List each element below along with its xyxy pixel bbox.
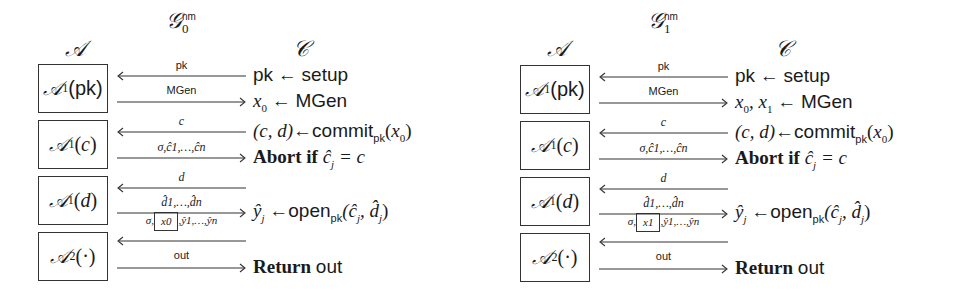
label-suffix: ,ŷ1,…,ŷn <box>660 215 699 227</box>
assign-arrow: ← <box>278 64 297 85</box>
label-suffix: ,ŷ1,…,ŷn <box>178 214 217 226</box>
step-lhs: (c, d) <box>253 120 293 141</box>
arrow-right-icon <box>117 263 246 273</box>
arrow-left-icon <box>117 183 246 193</box>
challenger-step-setup: pk ← setup <box>253 64 348 86</box>
step-fn: commit <box>312 120 373 141</box>
box-arg: pk <box>557 78 578 101</box>
challenger-step-commit: (c, d)←commitpk(x0) <box>253 120 412 144</box>
message-label-sigma-x-y-hats: σ,x1,ŷ1,…,ŷn <box>599 213 728 232</box>
step-args: (ĉ <box>342 200 357 221</box>
step-args-mid: , d̂ <box>842 201 861 222</box>
message-label-out: out <box>599 250 728 262</box>
step-expr: ĉ <box>805 147 813 168</box>
challenger-step-setup: pk ← setup <box>735 65 830 87</box>
assign-arrow: ← <box>751 201 770 222</box>
label-prefix: σ, <box>628 215 636 227</box>
step-lhs-sub: 1 <box>767 103 773 115</box>
step-rhs: setup <box>302 64 348 85</box>
arrow-left-icon <box>599 184 728 194</box>
box-symbol: 𝒜 <box>49 189 68 212</box>
challenger-step-open: ŷj ←openpk(ĉj, d̂j) <box>253 200 388 224</box>
step-value: out <box>798 257 824 278</box>
challenger-step-return: Return out <box>253 256 342 278</box>
arrow-right-icon <box>117 153 246 163</box>
step-args-mid: , d̂ <box>360 200 379 221</box>
box-arg: c <box>563 134 572 157</box>
game-title: 𝒢nm0 <box>166 8 188 37</box>
box-arg: d <box>563 190 573 213</box>
step-value: out <box>316 256 342 277</box>
step-expr-rest: = c <box>334 146 365 167</box>
game-title: 𝒢nm1 <box>648 8 670 37</box>
step-fn: open <box>288 200 330 221</box>
challenger-step-abort: Abort if ĉj = c <box>735 147 847 171</box>
box-symbol: 𝒜 <box>49 133 68 156</box>
box-symbol: 𝒜 <box>531 190 550 213</box>
assign-arrow: ← <box>269 200 288 221</box>
step-fn-sub: pk <box>373 132 385 144</box>
step-keyword: Return <box>253 256 311 277</box>
message-label-sigma-x-y-hats: σ,x0,ŷ1,…,ŷn <box>117 212 246 231</box>
step-fn: open <box>770 201 812 222</box>
step-arg: x <box>873 121 881 142</box>
assign-arrow: ← <box>775 121 794 142</box>
highlighted-x-box: x0 <box>154 212 178 231</box>
adversary-box-a1-d: 𝒜1(d) <box>520 177 590 226</box>
arrow-right-icon <box>599 264 728 274</box>
step-expr-rest: = c <box>816 147 847 168</box>
step-expr: ĉ <box>323 146 331 167</box>
arrow-right-icon <box>599 154 728 164</box>
step-fn-sub: pk <box>855 133 867 145</box>
step-rhs: MGen <box>295 90 347 111</box>
paren: ) <box>887 121 893 142</box>
step-lhs: pk <box>735 65 755 86</box>
step-args: (ĉ <box>824 201 839 222</box>
box-arg: c <box>81 133 90 156</box>
step-keyword: Abort if <box>253 146 318 167</box>
paren: ) <box>864 201 870 222</box>
step-lhs: x <box>758 91 766 112</box>
arrow-left-icon <box>117 71 246 81</box>
challenger-label: 𝒞 <box>775 36 791 62</box>
step-lhs-sub: j <box>261 212 264 224</box>
step-rhs: setup <box>784 65 830 86</box>
step-rhs: MGen <box>801 91 853 112</box>
box-symbol: 𝒜 <box>43 77 62 100</box>
game-subscript: 1 <box>664 21 671 36</box>
step-arg: x <box>391 120 399 141</box>
adversary-label: 𝒜 <box>547 36 568 62</box>
box-symbol: 𝒜 <box>531 134 550 157</box>
step-lhs-sub: 0 <box>261 102 267 114</box>
game-symbol: 𝒢 <box>166 8 182 33</box>
label-prefix: σ, <box>146 214 154 226</box>
step-lhs: pk <box>253 64 273 85</box>
arrow-right-icon <box>117 97 246 107</box>
box-symbol: 𝒜 <box>525 78 544 101</box>
paren: ) <box>382 200 388 221</box>
adversary-box-a1-c: 𝒜1(c) <box>38 120 108 169</box>
box-arg: pk <box>75 77 96 100</box>
arrow-left-icon <box>599 128 728 138</box>
adversary-label: 𝒜 <box>65 36 86 62</box>
box-arg: · <box>82 245 89 268</box>
challenger-step-open: ŷj ←openpk(ĉj, d̂j) <box>735 201 870 225</box>
message-label-pk: pk <box>117 59 246 71</box>
step-fn-sub: pk <box>813 213 825 225</box>
game-0-panel: 𝒢nm0 𝒜 𝒞 𝒜1(pk) 𝒜1(c) 𝒜1(d) 𝒜2(·) pk MGe… <box>0 0 480 302</box>
step-fn-sub: pk <box>331 212 343 224</box>
step-lhs-sub: j <box>743 213 746 225</box>
adversary-box-a1-d: 𝒜1(d) <box>38 176 108 225</box>
step-lhs: (c, d) <box>735 121 775 142</box>
comma: , <box>749 91 759 112</box>
adversary-box-a2: 𝒜2(·) <box>520 233 590 282</box>
message-label-mgen: MGen <box>117 84 246 96</box>
assign-arrow: ← <box>777 91 796 112</box>
box-symbol: 𝒜 <box>532 246 551 269</box>
highlighted-x-box: x1 <box>636 213 660 232</box>
message-label-pk: pk <box>599 60 728 72</box>
box-arg: d <box>81 189 91 212</box>
arrow-left-icon <box>117 236 246 246</box>
message-label-out: out <box>117 249 246 261</box>
arrow-left-icon <box>599 72 728 82</box>
